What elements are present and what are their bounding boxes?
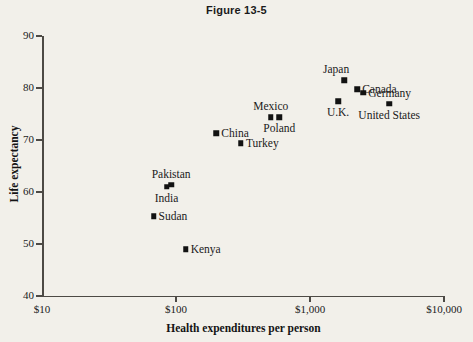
data-point-label: U.K. [327, 106, 349, 118]
data-point-marker [214, 130, 220, 136]
data-point-marker [268, 114, 274, 120]
data-point-marker [168, 182, 174, 188]
y-tick-label: 50 [10, 238, 34, 249]
data-point-label: Mexico [253, 100, 288, 112]
x-tick-label: $1,000 [295, 303, 325, 315]
y-tick-mark [36, 35, 42, 36]
data-point-label: Poland [263, 122, 295, 134]
data-point-marker [354, 86, 360, 92]
data-point-label: Japan [323, 63, 349, 75]
y-tick-label: 90 [10, 30, 34, 41]
data-point-label: Kenya [191, 243, 221, 255]
x-tick-label: $100 [165, 303, 187, 315]
figure-13-5-scatter-chart: Figure 13-5 405060708090 $10$100$1,000$1… [0, 0, 473, 342]
data-point-label: Turkey [246, 137, 279, 149]
x-tick-label: $10 [34, 303, 51, 315]
y-tick-mark [36, 295, 42, 296]
y-tick-mark [36, 243, 42, 244]
y-tick-label: 80 [10, 82, 34, 93]
data-point-marker [151, 214, 157, 220]
data-point-marker [335, 98, 341, 104]
data-point-marker [361, 90, 367, 96]
data-point-marker [183, 246, 189, 252]
chart-title: Figure 13-5 [0, 4, 473, 16]
data-point-label: Sudan [159, 210, 188, 222]
y-tick-label: 40 [10, 290, 34, 301]
x-axis-line [42, 296, 445, 298]
x-tick-mark [309, 296, 310, 302]
y-tick-label-wrap: 40 [0, 290, 34, 301]
y-axis-title: Life expectancy [8, 104, 20, 224]
data-point-marker [386, 101, 392, 107]
y-tick-mark [36, 139, 42, 140]
data-point-label: Germany [368, 87, 411, 99]
x-tick-mark [175, 296, 176, 302]
x-tick-label: $10,000 [426, 303, 462, 315]
data-point-label: India [155, 192, 179, 204]
data-point-label: United States [358, 109, 420, 121]
y-tick-label-wrap: 50 [0, 238, 34, 249]
y-tick-mark [36, 191, 42, 192]
x-tick-mark [443, 296, 444, 302]
x-axis-title: Health expenditures per person [42, 322, 445, 334]
data-point-label: Pakistan [152, 168, 191, 180]
data-point-marker [277, 114, 283, 120]
data-point-marker [341, 77, 347, 83]
y-tick-label-wrap: 90 [0, 30, 34, 41]
y-tick-mark [36, 87, 42, 88]
y-tick-label-wrap: 80 [0, 82, 34, 93]
data-point-marker [238, 140, 244, 146]
data-point-label: China [221, 127, 248, 139]
y-axis-line [42, 36, 44, 297]
